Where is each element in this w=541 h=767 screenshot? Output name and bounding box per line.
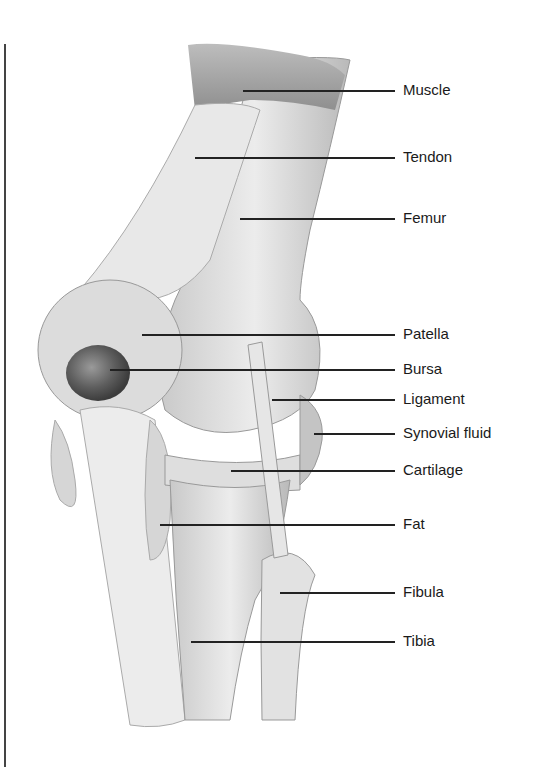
leader-line-fibula [280, 592, 395, 594]
bursa-shape [66, 345, 130, 401]
leader-line-cartilage [231, 470, 395, 472]
label-bursa: Bursa [403, 360, 442, 378]
leader-line-muscle [243, 90, 395, 92]
label-tendon: Tendon [403, 148, 452, 166]
leader-line-bursa [110, 369, 395, 371]
label-fat: Fat [403, 515, 425, 533]
label-patella: Patella [403, 325, 449, 343]
synovial-fluid-shape [300, 395, 322, 485]
muscle-shape [188, 44, 345, 110]
label-muscle: Muscle [403, 81, 451, 99]
label-tibia: Tibia [403, 632, 435, 650]
leader-line-synovial-fluid [314, 433, 395, 435]
patellar-tendon-shape [80, 407, 185, 727]
knee-illustration [0, 0, 541, 767]
leader-line-patella [142, 334, 395, 336]
label-cartilage: Cartilage [403, 461, 463, 479]
leader-line-fat [160, 524, 395, 526]
leader-line-tendon [195, 157, 395, 159]
fat-pad-shape [145, 420, 171, 560]
label-ligament: Ligament [403, 390, 465, 408]
leader-line-tibia [191, 641, 395, 643]
label-synovial-fluid: Synovial fluid [403, 424, 491, 442]
label-femur: Femur [403, 209, 446, 227]
leader-line-femur [240, 218, 395, 220]
label-fibula: Fibula [403, 583, 444, 601]
fibula-shape [261, 553, 315, 720]
leader-line-ligament [272, 399, 395, 401]
